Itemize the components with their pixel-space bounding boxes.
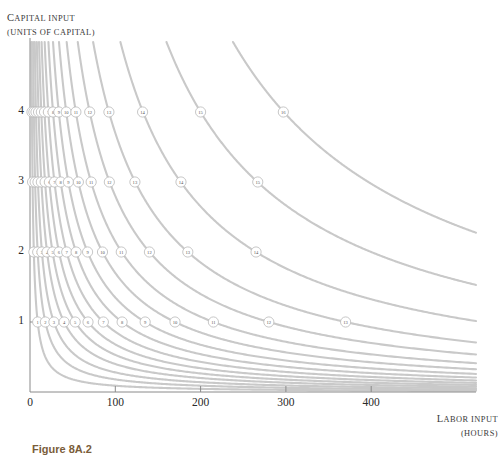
isoquant-curve-8	[48, 42, 476, 378]
node-label: 14	[254, 250, 259, 255]
node-label: 10	[173, 320, 178, 325]
isoquant-node-13: 13	[183, 247, 193, 257]
isoquant-node-11: 11	[208, 317, 218, 327]
isoquant-figure: 1111222233334444555566667777888899991010…	[0, 0, 504, 456]
x-axis-title-units: (HOURS)	[437, 428, 498, 439]
x-tick-label: 0	[15, 396, 45, 408]
isoquant-node-11: 11	[116, 247, 126, 257]
node-label: 11	[119, 250, 124, 255]
node-label: 12	[87, 110, 92, 115]
isoquant-node-7: 7	[62, 247, 72, 257]
isoquant-node-10: 10	[170, 317, 180, 327]
isoquant-node-11: 11	[86, 177, 96, 187]
node-label: 10	[100, 250, 105, 255]
isoquant-node-14: 14	[138, 107, 148, 117]
isoquant-node-8: 8	[117, 317, 127, 327]
x-axis-title-rest: ABOR INPUT	[443, 415, 498, 424]
isoquant-node-5: 5	[70, 317, 80, 327]
isoquant-node-12: 12	[144, 247, 154, 257]
isoquant-curve-14	[120, 42, 476, 321]
node-label: 11	[211, 320, 216, 325]
node-label: 14	[179, 180, 184, 185]
node-label: 12	[267, 320, 272, 325]
node-label: 13	[343, 320, 348, 325]
node-label: 14	[140, 110, 145, 115]
node-label: 13	[107, 110, 112, 115]
node-label: 13	[133, 180, 138, 185]
isoquant-curves	[32, 42, 476, 391]
y-tick-label: 2	[4, 244, 24, 256]
x-tick-label: 100	[100, 396, 130, 408]
isoquant-curve-16	[233, 42, 476, 233]
isoquant-node-11: 11	[71, 107, 81, 117]
isoquant-node-4: 4	[59, 317, 69, 327]
isoquant-node-9: 9	[63, 177, 73, 187]
isoquant-curve-15	[166, 42, 476, 285]
node-label: 12	[147, 250, 152, 255]
chart-axes	[30, 38, 476, 392]
node-label: 11	[74, 110, 79, 115]
isoquant-node-3: 3	[49, 317, 59, 327]
isoquant-node-7: 7	[98, 317, 108, 327]
isoquant-node-10: 10	[73, 177, 83, 187]
isoquant-node-6: 6	[83, 317, 93, 327]
isoquant-node-14: 14	[176, 177, 186, 187]
isoquant-node-10: 10	[97, 247, 107, 257]
isoquant-node-13: 13	[130, 177, 140, 187]
isoquant-node-14: 14	[251, 247, 261, 257]
node-label: 15	[255, 180, 260, 185]
figure-caption: Figure 8A.2	[32, 443, 92, 455]
isoquant-node-16: 16	[278, 107, 288, 117]
y-axis-title-units: (UNITS OF CAPITAL)	[7, 27, 95, 38]
isoquant-node-13: 13	[104, 107, 114, 117]
node-label: 13	[186, 250, 191, 255]
isoquant-curve-3	[35, 42, 476, 388]
node-label: 12	[107, 180, 112, 185]
isoquant-node-15: 15	[253, 177, 263, 187]
node-label: 15	[198, 110, 203, 115]
isoquant-node-10: 10	[61, 107, 71, 117]
isoquant-node-12: 12	[264, 317, 274, 327]
isoquant-node-12: 12	[104, 177, 114, 187]
isoquant-curve-7	[45, 42, 476, 380]
y-axis-title-rest: APITAL INPUT	[14, 14, 75, 23]
y-axis-title: CAPITAL INPUT (UNITS OF CAPITAL)	[7, 5, 95, 38]
isoquant-curve-2	[33, 42, 476, 390]
node-label: 10	[64, 110, 69, 115]
x-tick-label: 300	[271, 396, 301, 408]
isoquant-node-9: 9	[140, 317, 150, 327]
isoquant-node-12: 12	[85, 107, 95, 117]
node-label: 10	[76, 180, 81, 185]
isoquant-node-8: 8	[71, 247, 81, 257]
isoquant-curve-11	[67, 42, 476, 363]
isoquant-curve-13	[93, 42, 476, 342]
node-label: 16	[281, 110, 286, 115]
isoquant-node-9: 9	[82, 247, 92, 257]
node-label: 11	[89, 180, 94, 185]
x-tick-label: 400	[356, 396, 386, 408]
y-tick-label: 4	[4, 104, 24, 116]
y-tick-label: 1	[4, 314, 24, 326]
isoquant-curve-6	[42, 42, 476, 383]
isoquant-curve-1	[32, 42, 476, 391]
y-tick-label: 3	[4, 174, 24, 186]
x-axis-title: LABOR INPUT (HOURS)	[437, 406, 498, 439]
x-tick-label: 200	[186, 396, 216, 408]
isoquant-node-15: 15	[196, 107, 206, 117]
isoquant-node-13: 13	[341, 317, 351, 327]
